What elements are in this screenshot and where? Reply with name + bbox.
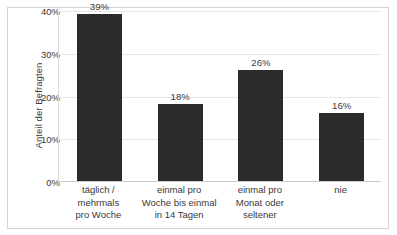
x-tick-label: täglich / mehrmals pro Woche <box>59 184 137 222</box>
bar[interactable] <box>77 14 122 181</box>
bar-value-label: 26% <box>251 57 270 68</box>
x-tick-label: nie <box>302 184 380 197</box>
chart-frame: Anteil der Befragten 40% 30% 20% 10% 0% … <box>7 7 389 229</box>
bar-value-label: 18% <box>171 91 190 102</box>
x-axis-category-labels: täglich / mehrmals pro Woche einmal pro … <box>58 184 381 228</box>
bars-layer: 39% 18% 26% 16% <box>59 11 381 182</box>
bar[interactable] <box>319 113 364 181</box>
plot-area: 39% 18% 26% 16% <box>58 11 381 182</box>
bar-value-label: 16% <box>332 100 351 111</box>
bar-chart: Anteil der Befragten 40% 30% 20% 10% 0% … <box>0 0 397 235</box>
x-tick-label: einmal pro Monat oder seltener <box>221 184 299 222</box>
bar-value-label: 39% <box>90 1 109 12</box>
bar[interactable] <box>238 70 283 181</box>
bar[interactable] <box>158 104 203 181</box>
x-tick-label: einmal pro Woche bis einmal in 14 Tagen <box>140 184 218 222</box>
